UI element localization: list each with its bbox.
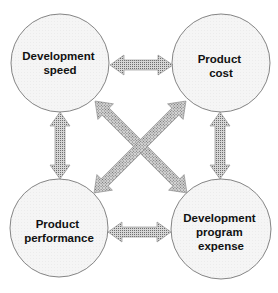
double-arrow-icon [50, 112, 70, 179]
node-development-speed: Development speed [11, 14, 109, 112]
node-circle [11, 14, 109, 112]
node-product-cost: Product cost [172, 14, 270, 112]
double-arrow-icon [110, 55, 173, 75]
node-product-performance: Product performance [10, 179, 108, 277]
tradeoff-diagram: Development speed Product cost Product p… [0, 0, 278, 293]
double-arrow-icon [108, 222, 171, 242]
double-arrow-icon [210, 112, 230, 179]
node-development-program-expense: Development program expense [171, 179, 271, 279]
